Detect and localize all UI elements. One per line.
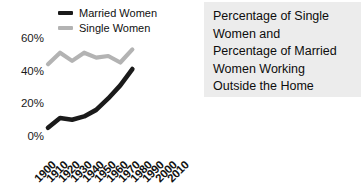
caption-line: Women and bbox=[213, 26, 357, 44]
legend-swatch-icon bbox=[58, 11, 73, 15]
caption-line: Percentage of Single bbox=[213, 8, 357, 26]
caption-line: Outside the Home bbox=[213, 78, 357, 96]
legend-item: Married Women bbox=[58, 6, 188, 20]
caption-line: Percentage of Married bbox=[213, 43, 357, 61]
legend-label: Married Women bbox=[79, 7, 157, 19]
legend-label: Single Women bbox=[79, 22, 150, 34]
chart-legend: Married WomenSingle Women bbox=[58, 6, 188, 36]
caption-line: Women Working bbox=[213, 61, 357, 79]
legend-swatch-icon bbox=[58, 26, 73, 30]
legend-item: Single Women bbox=[58, 21, 188, 35]
caption-text-box: Percentage of SingleWomen andPercentage … bbox=[204, 2, 361, 97]
chart-figure: 0%20%40%60% 1900191019201930194019501960… bbox=[0, 0, 361, 189]
